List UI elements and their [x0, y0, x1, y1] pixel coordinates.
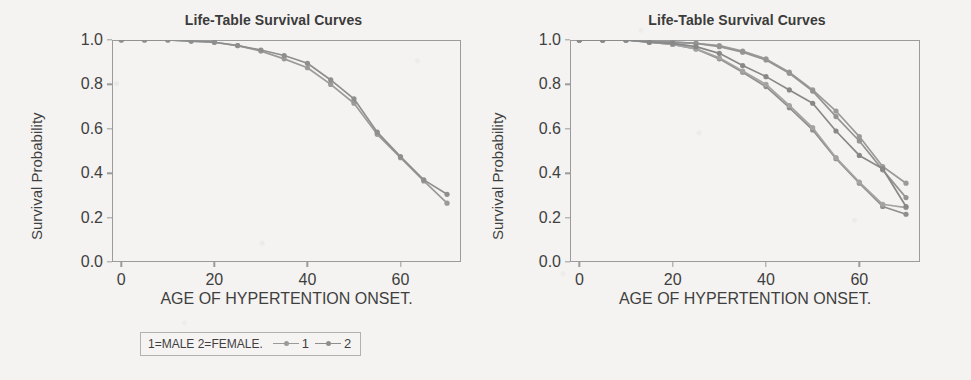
- data-point: [328, 77, 333, 82]
- data-point: [763, 57, 768, 62]
- y-tick-label: 0.4: [539, 164, 561, 182]
- data-point: [165, 40, 170, 43]
- data-point: [787, 103, 792, 108]
- data-point: [398, 154, 403, 159]
- y-tick-label: 0.0: [81, 253, 103, 271]
- y-tick-label: 1.0: [81, 31, 103, 49]
- y-tick-mark: [107, 39, 112, 40]
- y-tick-label: 0.2: [539, 209, 561, 227]
- x-tick-mark: [859, 262, 860, 267]
- x-tick-mark: [121, 262, 122, 267]
- x-tick-label: 20: [664, 271, 682, 289]
- data-point: [740, 63, 745, 68]
- y-tick-mark: [565, 261, 570, 262]
- legend-entry-1: 1: [273, 336, 311, 351]
- series-1: [577, 40, 909, 186]
- data-point: [717, 55, 722, 60]
- data-point: [142, 40, 147, 43]
- data-point: [717, 44, 722, 49]
- data-point: [903, 181, 908, 186]
- data-point: [212, 40, 217, 45]
- legend-caption: 1=MALE 2=FEMALE.: [148, 337, 263, 351]
- y-tick-label: 0.4: [81, 164, 103, 182]
- data-point: [857, 153, 862, 158]
- chart-panel-right: Life-Table Survival Curves Survival Prob…: [485, 0, 971, 380]
- legend-left: 1=MALE 2=FEMALE. 12: [140, 332, 361, 356]
- y-tick-label: 0.0: [539, 253, 561, 271]
- x-tick-label: 0: [575, 271, 584, 289]
- x-axis-label-right: AGE OF HYPERTENTION ONSET.: [570, 290, 920, 308]
- legend-entry-2: 2: [315, 336, 353, 351]
- y-tick-mark: [565, 39, 570, 40]
- data-point: [810, 101, 815, 106]
- x-tick-label: 0: [117, 271, 126, 289]
- series-line: [121, 40, 447, 194]
- x-tick-mark: [214, 262, 215, 267]
- data-point: [577, 40, 582, 43]
- data-point: [903, 212, 908, 217]
- x-tick-label: 40: [757, 271, 775, 289]
- y-tick-label: 0.6: [539, 120, 561, 138]
- data-point: [833, 128, 838, 133]
- y-tick-label: 0.2: [81, 209, 103, 227]
- x-axis-label: AGE OF HYPERTENTION ONSET.: [112, 290, 461, 308]
- x-tick-mark: [400, 262, 401, 267]
- y-axis-label: Survival Probability: [28, 112, 45, 240]
- y-tick-label: 1.0: [539, 31, 561, 49]
- data-point: [670, 41, 675, 46]
- data-point: [305, 61, 310, 66]
- y-tick-mark: [107, 128, 112, 129]
- data-point: [717, 51, 722, 56]
- x-tick-mark: [672, 262, 673, 267]
- data-point: [833, 114, 838, 119]
- y-tick-mark: [107, 172, 112, 173]
- y-tick-mark: [107, 217, 112, 218]
- data-point: [328, 82, 333, 87]
- data-point: [903, 204, 908, 209]
- survival-curves-left: [112, 40, 461, 262]
- data-point: [600, 40, 605, 43]
- chart-panel-left: Life-Table Survival Curves Survival Prob…: [0, 0, 485, 380]
- x-tick-mark: [765, 262, 766, 267]
- data-point: [375, 130, 380, 135]
- plot-area-right: 0.00.20.40.60.81.00204060: [570, 40, 920, 262]
- data-point: [740, 68, 745, 73]
- data-point: [880, 166, 885, 171]
- data-point: [444, 192, 449, 197]
- series-2: [119, 40, 450, 197]
- y-tick-label: 0.8: [539, 75, 561, 93]
- x-tick-mark: [579, 262, 580, 267]
- data-point: [305, 65, 310, 70]
- data-point: [351, 96, 356, 101]
- legend-row: 1=MALE 2=FEMALE. 12: [148, 336, 353, 351]
- y-tick-mark: [565, 172, 570, 173]
- x-tick-mark: [307, 262, 308, 267]
- series-line: [579, 40, 906, 183]
- data-point: [189, 40, 194, 44]
- data-point: [857, 179, 862, 184]
- page-title: Life-Table Survival Curves: [0, 12, 485, 28]
- data-point: [880, 202, 885, 207]
- data-point: [903, 195, 908, 200]
- data-point: [833, 155, 838, 160]
- y-tick-mark: [107, 84, 112, 85]
- x-tick-label: 20: [205, 271, 223, 289]
- x-tick-label: 40: [299, 271, 317, 289]
- data-point: [740, 50, 745, 55]
- y-tick-label: 0.6: [81, 120, 103, 138]
- y-tick-mark: [565, 84, 570, 85]
- data-point: [787, 71, 792, 76]
- data-point: [119, 40, 124, 43]
- data-point: [693, 44, 698, 49]
- x-tick-label: 60: [392, 271, 410, 289]
- x-tick-label: 60: [850, 271, 868, 289]
- y-tick-mark: [565, 217, 570, 218]
- data-point: [623, 40, 628, 43]
- series-1: [119, 40, 450, 206]
- page-title-right: Life-Table Survival Curves: [485, 12, 971, 28]
- y-tick-mark: [565, 128, 570, 129]
- legend-key: 1: [301, 336, 311, 351]
- data-point: [810, 125, 815, 130]
- legend-swatch-icon: [273, 339, 299, 349]
- data-point: [763, 74, 768, 79]
